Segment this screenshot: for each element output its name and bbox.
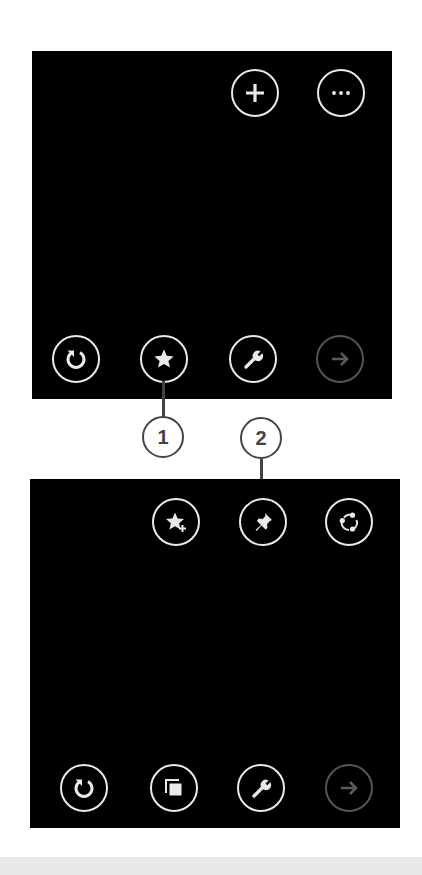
page-tools-button[interactable] [229, 335, 277, 383]
wrench-icon [240, 346, 266, 372]
callout-1-line [162, 381, 165, 417]
add-to-favorites-button[interactable] [152, 498, 200, 546]
pin-icon [250, 509, 276, 535]
forward-button[interactable] [316, 335, 364, 383]
more-icon [328, 80, 354, 106]
refresh-icon [63, 346, 89, 372]
forward-arrow-icon [336, 775, 362, 801]
forward-button[interactable] [325, 764, 373, 812]
refresh-button[interactable] [52, 335, 100, 383]
forward-arrow-icon [327, 346, 353, 372]
wrench-icon [248, 775, 274, 801]
refresh-icon [71, 775, 97, 801]
star-add-icon [163, 509, 189, 535]
star-icon [151, 346, 177, 372]
page-tools-button[interactable] [237, 764, 285, 812]
plus-icon [242, 80, 268, 106]
share-button[interactable] [325, 498, 373, 546]
callout-2-badge: 2 [240, 417, 282, 459]
pin-to-start-button[interactable] [239, 498, 287, 546]
refresh-button[interactable] [60, 764, 108, 812]
tabs-button[interactable] [150, 764, 198, 812]
new-tab-button[interactable] [231, 69, 279, 117]
share-icon [336, 509, 362, 535]
favorites-button[interactable] [140, 335, 188, 383]
more-button[interactable] [317, 69, 365, 117]
callout-1-badge: 1 [142, 416, 184, 458]
bottom-band [0, 857, 422, 875]
tabs-icon [161, 775, 187, 801]
